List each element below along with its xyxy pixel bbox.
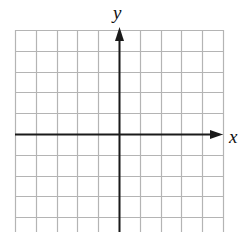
grid-graph	[0, 0, 248, 232]
x-axis-label: x	[229, 127, 237, 146]
x-axis-arrow-icon	[210, 130, 223, 139]
y-axis-label: y	[113, 3, 121, 22]
axes	[15, 27, 223, 232]
y-axis-arrow-icon	[115, 27, 124, 41]
